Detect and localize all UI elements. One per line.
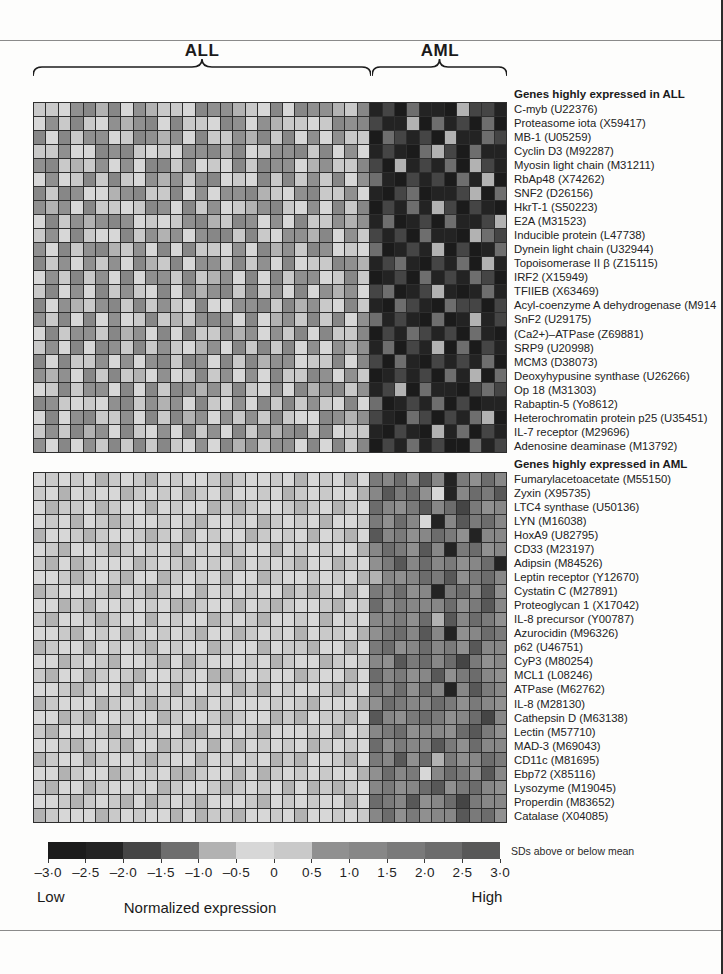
- heatmap-cell: [34, 669, 45, 682]
- heatmap-cell: [482, 397, 493, 410]
- heatmap-cell: [320, 627, 331, 640]
- gene-label: SnF2 (U29175): [514, 312, 723, 326]
- legend-swatch: [312, 842, 350, 859]
- heatmap-cell: [445, 397, 456, 410]
- heatmap-cell: [46, 355, 57, 368]
- heatmap-cell: [420, 781, 431, 794]
- heatmap-cell: [196, 369, 207, 382]
- heatmap-cell: [320, 201, 331, 214]
- heatmap-cell: [183, 501, 194, 514]
- heatmap-cell: [146, 271, 157, 284]
- legend-tick-label: 0: [270, 865, 278, 880]
- heatmap-cell: [96, 383, 107, 396]
- heatmap-cell: [146, 117, 157, 130]
- gene-label: RbAp48 (X74262): [514, 172, 723, 186]
- heatmap-cell: [457, 383, 468, 396]
- heatmap-cell: [233, 571, 244, 584]
- heatmap-cell: [457, 411, 468, 424]
- heatmap-cell: [283, 327, 294, 340]
- heatmap-cell: [308, 383, 319, 396]
- heatmap-cell: [445, 327, 456, 340]
- heatmap-cell: [183, 145, 194, 158]
- heatmap-cell: [495, 585, 506, 598]
- heatmap-cell: [208, 145, 219, 158]
- heatmap-cell: [495, 515, 506, 528]
- heatmap-cell: [432, 515, 443, 528]
- heatmap-cell: [445, 355, 456, 368]
- heatmap-cell: [295, 641, 306, 654]
- heatmap-cell: [59, 795, 70, 808]
- legend-tick: [349, 859, 350, 863]
- heatmap-cell: [84, 201, 95, 214]
- heatmap-cell: [233, 739, 244, 752]
- heatmap-cell: [432, 543, 443, 556]
- heatmap-cell: [407, 515, 418, 528]
- heatmap-cell: [96, 543, 107, 556]
- gene-label: ATPase (M62762): [514, 682, 723, 696]
- heatmap-cell: [482, 257, 493, 270]
- heatmap-cell: [358, 599, 369, 612]
- heatmap-cell: [407, 781, 418, 794]
- heatmap-cell: [495, 299, 506, 312]
- heatmap-cell: [246, 439, 257, 452]
- heatmap-cell: [295, 369, 306, 382]
- heatmap-cell: [171, 145, 182, 158]
- heatmap-cell: [71, 487, 82, 500]
- heatmap-cell: [146, 145, 157, 158]
- heatmap-cell: [208, 571, 219, 584]
- heatmap-cell: [271, 187, 282, 200]
- legend-tick-label: 2·5: [453, 865, 473, 880]
- heatmap-cell: [482, 781, 493, 794]
- heatmap-cell: [333, 173, 344, 186]
- heatmap-cell: [96, 327, 107, 340]
- heatmap-cell: [283, 697, 294, 710]
- heatmap-cell: [283, 243, 294, 256]
- heatmap-cell: [470, 257, 481, 270]
- heatmap-cell: [46, 515, 57, 528]
- heatmap-cell: [221, 229, 232, 242]
- heatmap-cell: [283, 767, 294, 780]
- heatmap-cell: [432, 299, 443, 312]
- heatmap-cell: [59, 501, 70, 514]
- heatmap-cell: [432, 397, 443, 410]
- heatmap-cell: [407, 257, 418, 270]
- heatmap-cell: [295, 487, 306, 500]
- heatmap-cell: [196, 145, 207, 158]
- heatmap-cell: [308, 599, 319, 612]
- heatmap-cell: [183, 683, 194, 696]
- heatmap-cell: [146, 697, 157, 710]
- heatmap-cell: [134, 411, 145, 424]
- heatmap-cell: [134, 103, 145, 116]
- heatmap-cell: [383, 529, 394, 542]
- heatmap-cell: [158, 711, 169, 724]
- heatmap-cell: [383, 117, 394, 130]
- heatmap-cell: [445, 383, 456, 396]
- heatmap-cell: [59, 103, 70, 116]
- heatmap-cell: [96, 683, 107, 696]
- heatmap-cell: [383, 739, 394, 752]
- heatmap-cell: [457, 669, 468, 682]
- heatmap-cell: [158, 159, 169, 172]
- heatmap-cell: [134, 767, 145, 780]
- heatmap-cell: [295, 711, 306, 724]
- heatmap-cell: [395, 355, 406, 368]
- heatmap-cell: [470, 243, 481, 256]
- heatmap-cell: [320, 697, 331, 710]
- heatmap-cell: [208, 173, 219, 186]
- legend-swatch: [349, 842, 387, 859]
- heatmap-cell: [482, 159, 493, 172]
- heatmap-cell: [96, 641, 107, 654]
- heatmap-cell: [109, 159, 120, 172]
- heatmap-cell: [109, 313, 120, 326]
- heatmap-cell: [271, 355, 282, 368]
- heatmap-cell: [370, 655, 381, 668]
- heatmap-cell: [271, 145, 282, 158]
- heatmap-cell: [432, 627, 443, 640]
- heatmap-cell: [121, 257, 132, 270]
- heatmap-cell: [271, 103, 282, 116]
- heatmap-cell: [295, 585, 306, 598]
- heatmap-cell: [271, 425, 282, 438]
- heatmap-cell: [308, 725, 319, 738]
- heatmap-cell: [208, 159, 219, 172]
- heatmap-cell: [121, 669, 132, 682]
